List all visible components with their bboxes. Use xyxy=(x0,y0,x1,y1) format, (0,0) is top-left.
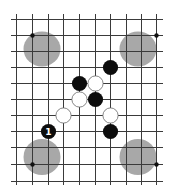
top-right-zone xyxy=(120,32,157,67)
white-stone-icon xyxy=(88,76,103,91)
bottom-left-zone xyxy=(24,139,61,175)
black-stone xyxy=(103,124,118,139)
black-stone-icon xyxy=(103,60,118,75)
black-stone-icon xyxy=(103,124,118,139)
white-stone-icon xyxy=(56,108,71,123)
top-left-zone xyxy=(24,32,61,67)
white-stone xyxy=(56,108,71,123)
star-point-icon xyxy=(154,33,158,37)
white-stone-icon xyxy=(72,92,87,107)
white-stone xyxy=(72,92,87,107)
star-point-icon xyxy=(154,162,158,166)
white-stone-icon xyxy=(103,108,118,123)
black-stone xyxy=(72,76,87,91)
black-stone-icon xyxy=(88,92,103,107)
star-point-icon xyxy=(30,162,34,166)
black-stone-icon xyxy=(72,76,87,91)
black-stone xyxy=(88,92,103,107)
white-stone xyxy=(103,108,118,123)
move-number-label: 1 xyxy=(45,127,51,137)
white-stone xyxy=(88,76,103,91)
go-board-diagram: 1 xyxy=(0,0,174,196)
black-stone xyxy=(103,60,118,75)
bottom-right-zone xyxy=(120,139,157,175)
star-point-icon xyxy=(30,33,34,37)
black-stone-move-1: 1 xyxy=(41,124,56,139)
